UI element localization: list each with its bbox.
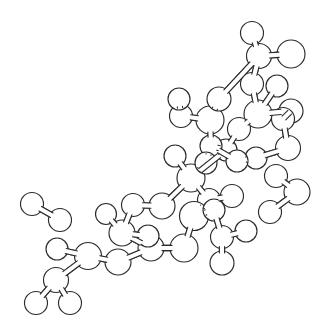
- atom-a8: [276, 136, 301, 161]
- atom-a3: [277, 40, 305, 68]
- atom-a9: [245, 147, 267, 169]
- bond-overlay-a22-a30: [162, 245, 172, 250]
- bond-overlay-a45-a8: [282, 128, 289, 138]
- bond-overlay-a19-a21: [218, 195, 223, 201]
- atom-a33: [46, 238, 68, 260]
- bond-overlay-a12-a14: [190, 115, 198, 121]
- bond-overlay-a26-a27: [142, 203, 151, 208]
- bond-overlay-a31-a32: [99, 256, 108, 263]
- atom-a24: [235, 220, 257, 242]
- bond-overlay-a28-a44: [133, 232, 140, 238]
- atom-a25: [210, 251, 234, 275]
- bond-overlay-a5-a7: [270, 109, 282, 115]
- atom-a1: [241, 22, 264, 45]
- bond-overlay-a23-a25: [219, 247, 224, 254]
- atom-a46: [203, 199, 225, 221]
- atom-a27: [122, 194, 145, 217]
- bond-overlay-a4-a5: [251, 93, 258, 103]
- bond-overlay-a12-a15: [208, 132, 213, 137]
- bond-overlay-a23-a24: [231, 231, 238, 238]
- molecular-structure-canvas: [0, 0, 324, 324]
- bond-overlay-a2-a3: [269, 52, 279, 58]
- atom-a22: [170, 234, 198, 262]
- atom-a31: [105, 249, 131, 275]
- molecule-figure: [0, 0, 324, 324]
- atom-a23: [211, 226, 234, 249]
- atom-a21: [221, 185, 244, 208]
